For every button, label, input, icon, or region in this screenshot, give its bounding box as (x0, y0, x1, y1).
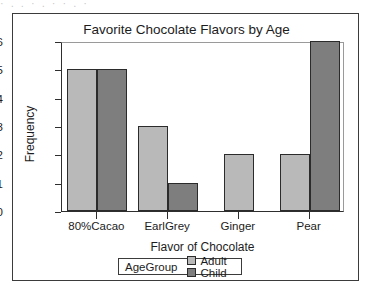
x-axis-tick-label: Pear (296, 220, 320, 232)
bar-child-pear (310, 41, 340, 211)
x-axis-tick (96, 212, 97, 219)
x-axis-tick-label: 80%Cacao (68, 220, 124, 232)
plot-area (61, 42, 344, 212)
scan-artifact: · , . · , · · , · (0, 0, 371, 7)
legend-swatch-child (187, 268, 196, 277)
bar-adult-ginger (224, 154, 254, 211)
x-axis-title: Flavor of Chocolate (61, 240, 344, 254)
x-axis-tick (167, 212, 168, 219)
y-axis-tick-label: 3 (0, 121, 3, 133)
y-axis-tick-label: 2 (0, 149, 3, 161)
legend-label-child: Child (200, 267, 226, 279)
bar-child-80-cacao (97, 69, 127, 211)
y-axis-tick-label: 0 (0, 206, 3, 218)
x-axis-tick-label: EarlGrey (144, 220, 189, 232)
legend-label-adult: Adult (200, 255, 226, 267)
y-axis-tick (55, 212, 61, 213)
x-axis-tick-label: Ginger (221, 220, 256, 232)
y-axis-tick-label: 5 (0, 64, 3, 76)
bar-child-earlgrey (168, 183, 198, 211)
y-axis-title: Frequency (23, 79, 37, 189)
legend-title: AgeGroup (125, 261, 177, 273)
bar-adult-pear (280, 154, 310, 211)
x-axis-tick (309, 212, 310, 219)
y-axis-tick-label: 6 (0, 36, 3, 48)
legend-entry-adult: Adult (187, 255, 226, 267)
legend-entry-child: Child (187, 267, 234, 279)
chart-figure-frame: Favorite Chocolate Flavors by Age Freque… (12, 13, 359, 281)
legend-swatch-adult (187, 256, 196, 265)
bar-adult-earlgrey (138, 126, 168, 211)
bars-layer (62, 43, 343, 211)
chart-title: Favorite Chocolate Flavors by Age (13, 22, 360, 37)
x-axis-tick (238, 212, 239, 219)
y-axis-tick-label: 4 (0, 93, 3, 105)
y-axis-tick-label: 1 (0, 178, 3, 190)
legend: AgeGroup AdultChild (118, 258, 242, 275)
bar-adult-80-cacao (67, 69, 97, 211)
legend-entries: AdultChild (187, 255, 234, 279)
